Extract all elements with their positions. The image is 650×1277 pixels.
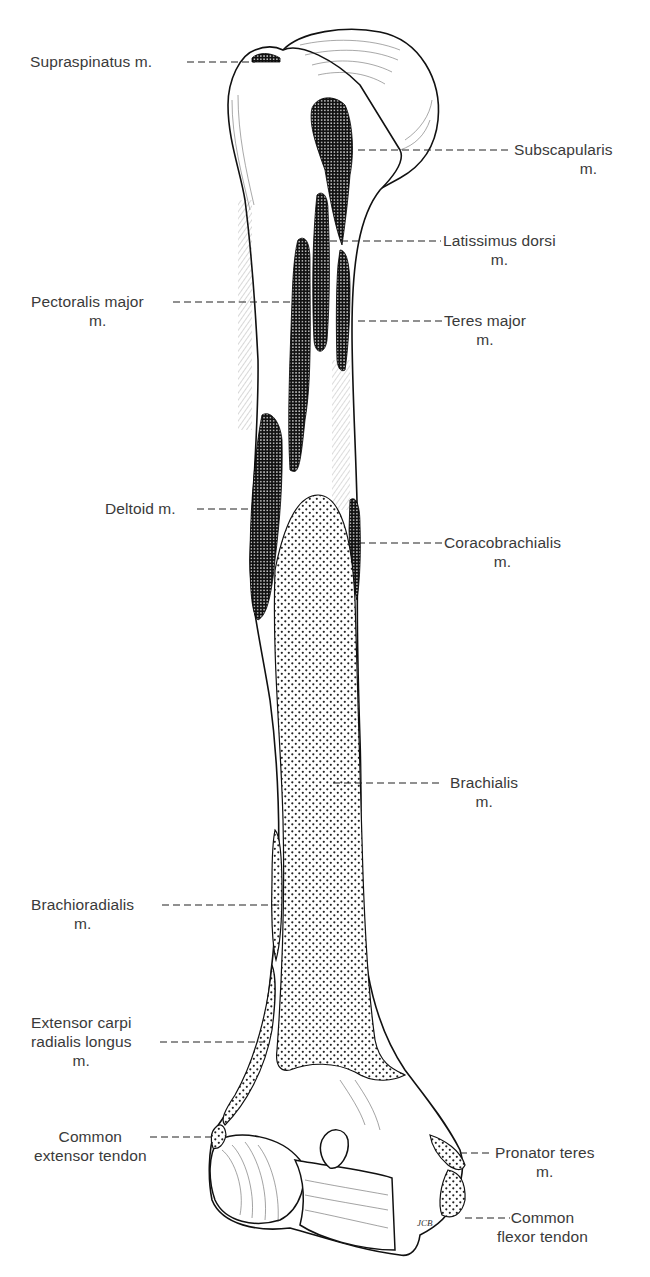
label-cft-line2: flexor tendon [497,1227,588,1246]
label-supraspinatus-text: Supraspinatus m. [30,52,152,71]
label-ecrl-line3: m. [31,1051,132,1070]
label-deltoid-text: Deltoid m. [105,499,176,518]
label-subscapularis-line1: Subscapularis [514,140,613,159]
label-teres-major-line2: m. [444,330,526,349]
label-coracobrachialis: Coracobrachialis m. [444,533,561,571]
label-teres-major-line1: Teres major [444,311,526,330]
label-deltoid: Deltoid m. [105,499,176,518]
label-pectoralis-major-line2: m. [31,311,144,330]
label-coracobrachialis-line2: m. [444,552,561,571]
label-subscapularis-line2: m. [514,159,613,178]
area-brachialis [274,495,405,1080]
label-pectoralis-major-line1: Pectoralis major [31,292,144,311]
label-cft-line1: Common [497,1208,588,1227]
label-brachioradialis: Brachioradialis m. [31,895,134,933]
label-latissimus-dorsi-line2: m. [443,250,556,269]
label-ecrl-line2: radialis longus [31,1032,132,1051]
label-coracobrachialis-line1: Coracobrachialis [444,533,561,552]
label-brachioradialis-line2: m. [31,914,134,933]
label-brachialis-line1: Brachialis [450,773,518,792]
label-pronator-teres: Pronator teres m. [495,1143,595,1181]
label-extensor-carpi-radialis-longus: Extensor carpi radialis longus m. [31,1013,132,1070]
label-teres-major: Teres major m. [444,311,526,349]
label-cet-line2: extensor tendon [34,1146,147,1165]
label-brachialis-line2: m. [450,792,518,811]
label-latissimus-dorsi-line1: Latissimus dorsi [443,231,556,250]
label-ecrl-line1: Extensor carpi [31,1013,132,1032]
humerus-illustration: JCB [0,0,650,1277]
label-pronator-teres-line2: m. [495,1162,595,1181]
label-latissimus-dorsi: Latissimus dorsi m. [443,231,556,269]
label-pronator-teres-line1: Pronator teres [495,1143,595,1162]
label-cet-line1: Common [34,1127,147,1146]
artist-initials: JCB [417,1218,433,1228]
label-brachioradialis-line1: Brachioradialis [31,895,134,914]
label-subscapularis: Subscapularis m. [514,140,613,178]
area-latissimus-dorsi [313,193,330,351]
label-supraspinatus: Supraspinatus m. [30,52,152,71]
label-common-extensor-tendon: Common extensor tendon [34,1127,147,1165]
label-brachialis: Brachialis m. [450,773,518,811]
label-common-flexor-tendon: Common flexor tendon [497,1208,588,1246]
label-pectoralis-major: Pectoralis major m. [31,292,144,330]
